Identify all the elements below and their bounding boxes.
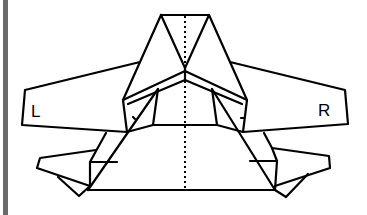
right-diagonal (212, 89, 275, 190)
right-outer-edge (209, 15, 247, 100)
lower-left-fin-outer (37, 150, 96, 186)
left-wing (22, 62, 140, 132)
folding-diagram: L R (0, 0, 367, 215)
right-wing (230, 62, 348, 132)
left-outer-edge (123, 15, 161, 100)
lower-left-fin (90, 133, 106, 186)
left-tick (133, 117, 135, 119)
left-label: L (31, 102, 40, 121)
right-label: R (318, 101, 330, 120)
